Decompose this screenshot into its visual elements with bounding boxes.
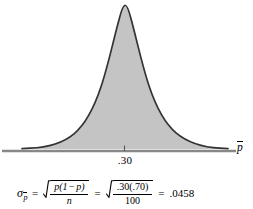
sampling-distribution-figure: .30 p σp = p(1−p) n = bbox=[0, 0, 253, 209]
p-bar-glyph: p bbox=[237, 140, 243, 153]
standard-error-formula: σp = p(1−p) n = .30(.70) bbox=[17, 178, 194, 208]
x-axis-tick-label-mean: .30 bbox=[108, 154, 142, 166]
sigma-subscript-p-bar: p bbox=[23, 192, 27, 202]
numerator-p-close: p) bbox=[76, 181, 84, 192]
normal-curve-svg bbox=[0, 0, 253, 160]
radical-numeric: .30(.70) 100 bbox=[106, 180, 154, 206]
x-axis-variable-label: p bbox=[237, 140, 243, 153]
normal-curve-plot: .30 p bbox=[0, 0, 253, 160]
fraction-numeric-numerator: .30(.70) bbox=[115, 182, 151, 194]
equals-sign-2: = bbox=[94, 187, 100, 199]
radical-general: p(1−p) n bbox=[43, 180, 89, 206]
fraction-numeric-denominator: 100 bbox=[113, 194, 153, 207]
fraction-general-denominator: n bbox=[50, 194, 88, 207]
equals-sign-1: = bbox=[32, 187, 38, 199]
fraction-numeric: .30(.70) 100 bbox=[115, 182, 151, 206]
sigma-subscript-letter: p bbox=[23, 193, 27, 202]
curve-fill-area bbox=[22, 5, 228, 149]
radical-numeric-body: .30(.70) 100 bbox=[114, 180, 154, 206]
sigma-p-bar-symbol: σp bbox=[17, 186, 27, 201]
radical-general-body: p(1−p) n bbox=[51, 180, 89, 206]
standard-error-result: .0458 bbox=[170, 187, 195, 199]
p-bar-letter: p bbox=[237, 141, 243, 153]
equals-sign-3: = bbox=[158, 187, 164, 199]
numerator-minus-sign: − bbox=[67, 181, 76, 192]
fraction-general: p(1−p) n bbox=[52, 182, 86, 206]
fraction-general-numerator: p(1−p) bbox=[52, 182, 86, 194]
